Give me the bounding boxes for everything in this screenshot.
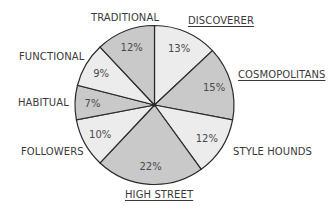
label-followers: FOLLOWERS — [21, 146, 84, 158]
label-cosmopolitans: COSMOPOLITANS — [238, 69, 325, 81]
slice-value-followers: 10% — [89, 129, 111, 140]
slice-value-discoverer: 13% — [168, 43, 190, 54]
slice-value-traditional: 12% — [121, 42, 143, 53]
label-functional: FUNCTIONAL — [19, 51, 84, 63]
slice-value-high-street: 22% — [139, 161, 161, 172]
label-style-hounds: STYLE HOUNDS — [233, 146, 312, 158]
slice-value-functional: 9% — [93, 68, 109, 79]
slice-value-habitual: 7% — [85, 98, 101, 109]
pie-center-dot — [153, 103, 157, 107]
label-high-street: HIGH STREET — [125, 189, 193, 201]
label-traditional: TRADITIONAL — [91, 12, 159, 24]
pie-chart: 13%15%12%22%10%7%9%12% TRADITIONAL DISCO… — [0, 0, 335, 212]
slice-value-cosmopolitans: 15% — [203, 82, 225, 93]
slice-value-style-hounds: 12% — [196, 133, 218, 144]
label-discoverer: DISCOVERER — [188, 15, 254, 27]
label-habitual: HABITUAL — [18, 97, 69, 109]
